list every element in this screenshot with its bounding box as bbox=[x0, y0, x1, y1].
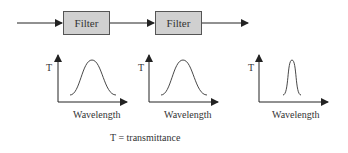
filter-box-1: Filter bbox=[63, 11, 110, 35]
x-axis-label: Wavelength bbox=[73, 109, 121, 120]
transmittance-curve bbox=[161, 60, 207, 95]
filter-label: Filter bbox=[167, 17, 191, 29]
y-axis-label: T bbox=[46, 62, 52, 73]
filter-box-2: Filter bbox=[155, 11, 202, 35]
filter-diagram: Filter Filter T Wavelength T Wavelength … bbox=[0, 0, 348, 153]
graph-3 bbox=[259, 55, 328, 102]
transmittance-curve bbox=[283, 60, 301, 95]
legend-text: T = transmittance bbox=[110, 132, 180, 143]
graph-2 bbox=[149, 55, 218, 102]
x-axis-label: Wavelength bbox=[164, 109, 212, 120]
x-axis-label: Wavelength bbox=[272, 109, 320, 120]
transmittance-curve bbox=[70, 60, 116, 95]
y-axis-label: T bbox=[248, 62, 254, 73]
y-axis-label: T bbox=[138, 62, 144, 73]
graph-1 bbox=[58, 55, 127, 102]
filter-label: Filter bbox=[75, 17, 99, 29]
